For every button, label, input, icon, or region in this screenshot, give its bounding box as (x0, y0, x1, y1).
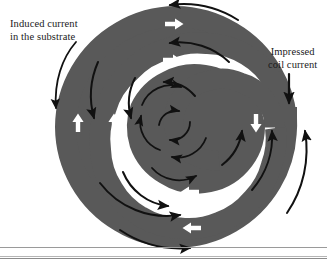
label-impressed-line-1: Impressed (268, 46, 317, 59)
label-induced-current: Induced current in the substrate (10, 18, 78, 43)
coil-conductor (66, 17, 298, 238)
label-impressed-line-2: coil current (268, 59, 317, 72)
bottom-rule-upper (0, 247, 327, 248)
label-induced-line-2: in the substrate (10, 31, 78, 44)
coil-outer-terminal (276, 107, 297, 122)
label-induced-line-1: Induced current (10, 18, 78, 31)
label-impressed-coil-current: Impressed coil current (268, 46, 317, 71)
figure-container: Induced current in the substrate Impress… (0, 0, 327, 259)
bottom-rule-middle (0, 256, 327, 257)
